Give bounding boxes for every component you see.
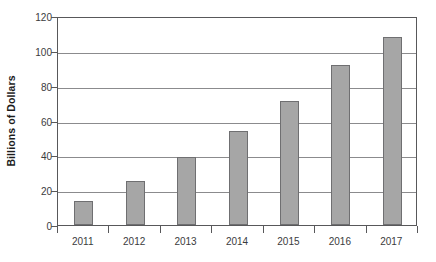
plot-area	[57, 17, 417, 226]
bar	[229, 131, 248, 225]
bar	[383, 37, 402, 225]
x-axis-tick-label: 2014	[211, 236, 263, 247]
gridline	[58, 88, 416, 89]
y-axis-tick-label: 100	[12, 46, 52, 57]
bar	[280, 101, 299, 225]
x-axis-tick-mark	[417, 226, 418, 233]
x-axis-tick-mark	[160, 226, 161, 233]
bar	[177, 157, 196, 225]
x-axis-tick-label: 2013	[160, 236, 212, 247]
y-axis-tick-label: 60	[12, 116, 52, 127]
x-axis-tick-label: 2015	[262, 236, 314, 247]
bar	[74, 201, 93, 225]
y-axis-tick-label: 80	[12, 81, 52, 92]
x-axis-tick-label: 2012	[108, 236, 160, 247]
x-axis-tick-mark	[108, 226, 109, 233]
y-axis-tick-label: 120	[12, 12, 52, 23]
y-axis-tick-label: 20	[12, 186, 52, 197]
x-axis-tick-label: 2011	[57, 236, 109, 247]
x-axis-tick-mark	[57, 226, 58, 233]
x-axis-tick-mark	[314, 226, 315, 233]
bar-chart: Billions of Dollars 020406080100120 2011…	[0, 0, 436, 262]
x-axis-tick-mark	[366, 226, 367, 233]
x-axis-tick-mark	[211, 226, 212, 233]
y-axis-tick-label: 40	[12, 151, 52, 162]
bar	[126, 181, 145, 225]
x-axis-tick-mark	[263, 226, 264, 233]
gridline	[58, 53, 416, 54]
x-axis-tick-label: 2017	[365, 236, 417, 247]
gridline	[58, 123, 416, 124]
bar	[331, 65, 350, 225]
y-axis-tick-label: 0	[12, 221, 52, 232]
x-axis-tick-label: 2016	[314, 236, 366, 247]
